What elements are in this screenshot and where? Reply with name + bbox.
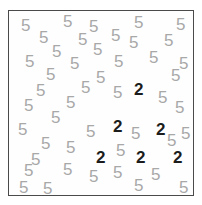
- target-digit-2[interactable]: 2: [156, 121, 165, 138]
- distractor-digit-5[interactable]: 5: [89, 168, 98, 185]
- distractor-digit-5[interactable]: 5: [18, 121, 27, 138]
- distractor-digit-5[interactable]: 5: [149, 49, 158, 66]
- distractor-digit-5[interactable]: 5: [66, 139, 75, 156]
- target-digit-2[interactable]: 2: [113, 118, 122, 135]
- target-digit-2[interactable]: 2: [134, 81, 143, 98]
- distractor-digit-5[interactable]: 5: [24, 162, 33, 179]
- distractor-digit-5[interactable]: 5: [114, 53, 123, 70]
- distractor-digit-5[interactable]: 5: [181, 125, 190, 142]
- distractor-digit-5[interactable]: 5: [19, 179, 28, 196]
- distractor-digit-5[interactable]: 5: [93, 41, 102, 58]
- distractor-digit-5[interactable]: 5: [43, 180, 52, 197]
- distractor-digit-5[interactable]: 5: [78, 31, 87, 48]
- distractor-digit-5[interactable]: 5: [131, 125, 140, 142]
- distractor-digit-5[interactable]: 5: [51, 109, 60, 126]
- target-digit-2[interactable]: 2: [173, 149, 182, 166]
- distractor-digit-5[interactable]: 5: [25, 53, 34, 70]
- distractor-digit-5[interactable]: 5: [134, 177, 143, 194]
- distractor-digit-5[interactable]: 5: [113, 164, 122, 181]
- distractor-digit-5[interactable]: 5: [39, 29, 48, 46]
- distractor-digit-5[interactable]: 5: [24, 97, 33, 114]
- target-digit-2[interactable]: 2: [136, 149, 145, 166]
- distractor-digit-5[interactable]: 5: [96, 69, 105, 86]
- search-array-panel: 5555555555555555555555525555525552555522…: [8, 10, 194, 196]
- distractor-digit-5[interactable]: 5: [176, 16, 185, 33]
- distractor-digit-5[interactable]: 5: [52, 43, 61, 60]
- distractor-digit-5[interactable]: 5: [134, 14, 143, 31]
- distractor-digit-5[interactable]: 5: [158, 89, 167, 106]
- distractor-digit-5[interactable]: 5: [116, 142, 125, 159]
- distractor-digit-5[interactable]: 5: [179, 179, 188, 196]
- distractor-digit-5[interactable]: 5: [63, 13, 72, 30]
- distractor-digit-5[interactable]: 5: [175, 99, 184, 116]
- distractor-digit-5[interactable]: 5: [36, 82, 45, 99]
- distractor-digit-5[interactable]: 5: [167, 132, 176, 149]
- distractor-digit-5[interactable]: 5: [66, 94, 75, 111]
- distractor-digit-5[interactable]: 5: [89, 18, 98, 35]
- distractor-digit-5[interactable]: 5: [21, 17, 30, 34]
- target-digit-2[interactable]: 2: [96, 149, 105, 166]
- distractor-digit-5[interactable]: 5: [171, 67, 180, 84]
- distractor-digit-5[interactable]: 5: [41, 135, 50, 152]
- distractor-digit-5[interactable]: 5: [113, 84, 122, 101]
- distractor-digit-5[interactable]: 5: [81, 79, 90, 96]
- distractor-digit-5[interactable]: 5: [70, 55, 79, 72]
- distractor-digit-5[interactable]: 5: [86, 123, 95, 140]
- distractor-digit-5[interactable]: 5: [129, 34, 138, 51]
- distractor-digit-5[interactable]: 5: [46, 66, 55, 83]
- distractor-digit-5[interactable]: 5: [164, 32, 173, 49]
- distractor-digit-5[interactable]: 5: [111, 27, 120, 44]
- distractor-digit-5[interactable]: 5: [151, 166, 160, 183]
- distractor-digit-5[interactable]: 5: [63, 161, 72, 178]
